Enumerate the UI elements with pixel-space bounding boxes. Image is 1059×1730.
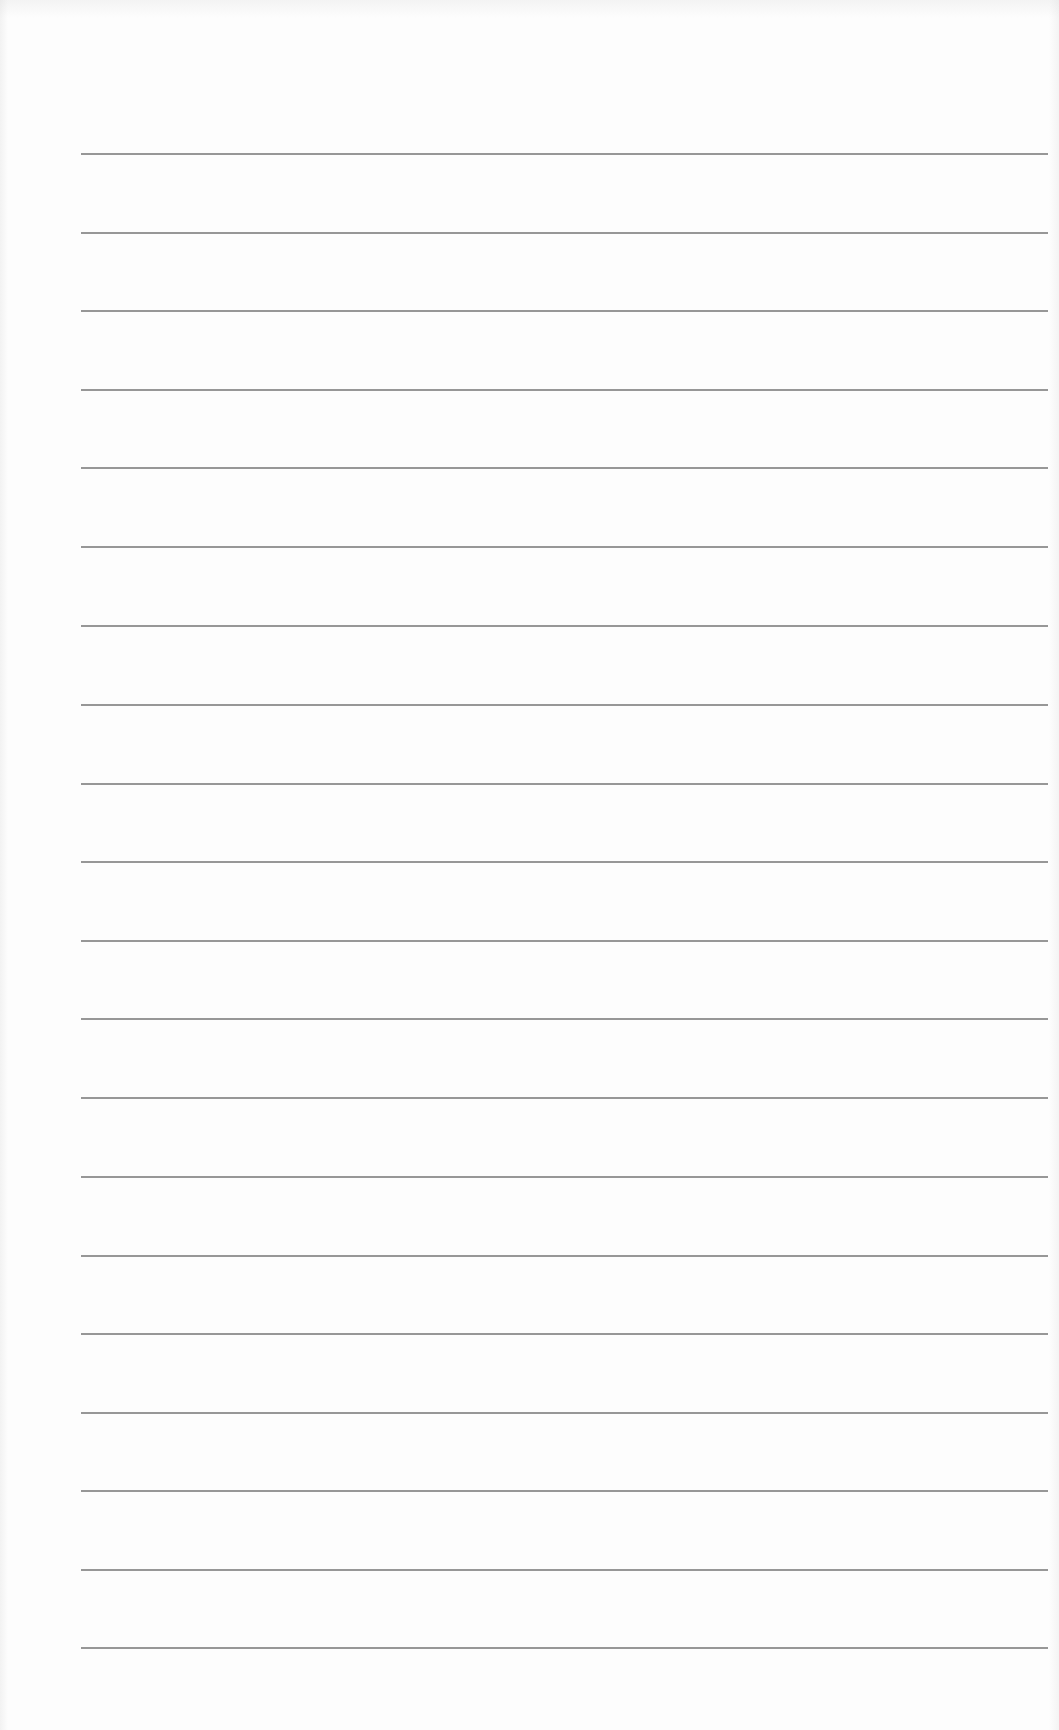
ruled-line [81, 1647, 1048, 1649]
ruled-line [81, 232, 1048, 234]
ruled-line [81, 1097, 1048, 1099]
ruled-line [81, 940, 1048, 942]
ruled-line [81, 783, 1048, 785]
ruled-line [81, 1255, 1048, 1257]
ruled-line [81, 1490, 1048, 1492]
scan-edge-right [1049, 0, 1059, 1730]
ruled-line [81, 1018, 1048, 1020]
scan-edge-left [0, 0, 8, 1730]
ruled-line [81, 310, 1048, 312]
ruled-line [81, 467, 1048, 469]
ruled-line [81, 625, 1048, 627]
ruled-line [81, 1412, 1048, 1414]
ruled-line [81, 1569, 1048, 1571]
ruled-line [81, 546, 1048, 548]
ruled-line [81, 1176, 1048, 1178]
scan-bleed-top [0, 0, 1059, 18]
ruled-line [81, 1333, 1048, 1335]
ruled-line [81, 153, 1048, 155]
ruled-line [81, 704, 1048, 706]
lined-page [0, 0, 1059, 1730]
ruled-line [81, 861, 1048, 863]
ruled-line [81, 389, 1048, 391]
